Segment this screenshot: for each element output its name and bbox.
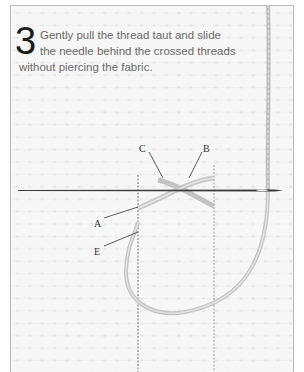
leader-a (104, 207, 138, 218)
label-c: C (139, 143, 146, 154)
instruction-line-3: without piercing the fabric. (19, 60, 153, 75)
label-a: A (94, 218, 101, 229)
needle (18, 190, 283, 192)
instruction-line-1: Gently pull the thread taut and slide (40, 28, 221, 43)
leader-c (149, 152, 163, 178)
label-e: E (94, 246, 100, 257)
instruction-text: Gently pull the thread taut and slide th… (0, 0, 304, 80)
label-b: B (203, 143, 210, 154)
instruction-line-2: the needle behind the crossed threads (40, 44, 236, 59)
leader-b (189, 152, 202, 178)
needle-eye (256, 190, 268, 192)
thread-loop (126, 190, 268, 313)
